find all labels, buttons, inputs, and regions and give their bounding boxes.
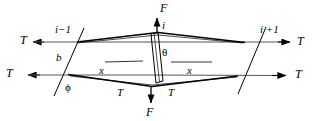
- label-tension-inner-left: T: [117, 87, 123, 98]
- label-force-top: F: [160, 2, 167, 14]
- physics-diagram: F F T T T T T T i−1 i i +1 θ ϕ b x x: [0, 0, 314, 121]
- label-tension-top-left: T: [20, 34, 27, 46]
- label-tension-bottom-right: T: [295, 68, 302, 80]
- label-length-b: b: [56, 52, 62, 63]
- chord-bottom-inner-left: [70, 76, 152, 85]
- dimension-lines-x: [105, 61, 212, 62]
- dimension-line-x-left: [105, 61, 143, 62]
- diagram-canvas: [0, 0, 314, 121]
- string-up-left-leg: [77, 33, 158, 43]
- label-angle-theta: θ: [162, 47, 167, 58]
- label-node-current: i: [162, 20, 165, 31]
- string-up-right-leg: [158, 33, 245, 43]
- label-node-next: i +1: [260, 24, 279, 35]
- label-span-left: x: [99, 65, 104, 76]
- label-force-bottom: F: [146, 106, 153, 118]
- chord-bottom-inner-right: [152, 77, 237, 85]
- label-tension-inner-right: T: [168, 87, 174, 98]
- lower-axis-right-segment: [152, 75, 283, 76]
- label-tension-bottom-left: T: [6, 67, 13, 79]
- lower-axis-group: [28, 75, 286, 76]
- section-line-node-next: [238, 27, 266, 94]
- label-angle-phi: ϕ: [65, 82, 71, 93]
- label-span-right: x: [187, 65, 192, 76]
- label-tension-top-right: T: [297, 35, 304, 47]
- label-node-prev: i−1: [55, 24, 71, 35]
